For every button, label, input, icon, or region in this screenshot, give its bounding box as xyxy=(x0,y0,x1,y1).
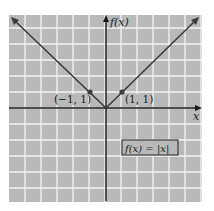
point-label-neg1-1: (−1, 1) xyxy=(54,93,91,105)
function-label: f(x) = |x| xyxy=(124,143,169,155)
y-axis-label: f(x) xyxy=(109,16,129,29)
point-1-1 xyxy=(119,89,124,94)
abs-value-graph: (−1, 1) (1, 1) x f(x) f(x) = |x| xyxy=(0,0,214,211)
point-label-1-1: (1, 1) xyxy=(125,93,153,105)
x-axis-label: x xyxy=(193,110,200,123)
